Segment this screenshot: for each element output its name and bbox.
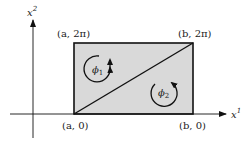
x2-axis-label: x2 — [27, 5, 38, 18]
x1-axis-label: x1 — [231, 107, 241, 120]
corner-label-top-right: (b, 2π) — [178, 28, 212, 39]
diagram-canvas: x1 x2 (a, 2π) (b, 2π) (a, 0) (b, 0) ϕ1 ϕ… — [0, 0, 251, 144]
corner-label-bottom-right: (b, 0) — [179, 120, 206, 131]
corner-label-top-left: (a, 2π) — [57, 28, 90, 39]
corner-label-bottom-left: (a, 0) — [62, 120, 89, 131]
